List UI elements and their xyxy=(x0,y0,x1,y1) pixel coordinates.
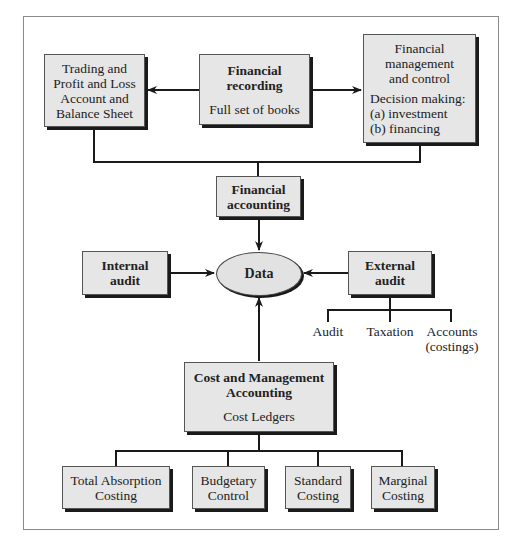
box-detail: Decision making: xyxy=(364,91,466,106)
box-text: Trading and xyxy=(62,61,127,76)
box-title: audit xyxy=(375,273,405,288)
box-text: Balance Sheet xyxy=(56,106,133,121)
box-title: accounting xyxy=(227,197,290,212)
box-title: Accounting xyxy=(226,385,292,400)
box-detail: (a) investment xyxy=(364,106,448,121)
box-text: Profit and Loss xyxy=(53,76,136,91)
box-text: Costing xyxy=(95,488,137,503)
external-audit-child-audit: Audit xyxy=(308,324,348,339)
box-subtitle: Full set of books xyxy=(209,102,299,117)
box-title: Cost and Management xyxy=(194,370,325,385)
marginal-costing-box: Marginal Costing xyxy=(371,466,435,509)
box-text: Control xyxy=(208,488,249,503)
data-ellipse: Data xyxy=(216,252,302,296)
box-title: Financial xyxy=(394,41,444,56)
box-detail: (b) financing xyxy=(364,121,440,136)
box-text: Costing xyxy=(297,488,339,503)
box-title: management xyxy=(385,56,454,71)
leaf-sublabel: (costings) xyxy=(421,339,483,354)
box-title: and control xyxy=(389,71,450,86)
box-title: Internal xyxy=(101,258,148,273)
box-text: Total Absorption xyxy=(71,473,162,488)
box-title: audit xyxy=(110,273,140,288)
box-text: Costing xyxy=(382,488,424,503)
budgetary-control-box: Budgetary Control xyxy=(192,466,265,509)
box-subtitle: Cost Ledgers xyxy=(223,409,295,424)
data-label: Data xyxy=(245,266,274,282)
box-title: External xyxy=(365,258,415,273)
external-audit-child-taxation: Taxation xyxy=(362,324,418,339)
box-text: Budgetary xyxy=(200,473,256,488)
leaf-label: Accounts xyxy=(421,324,483,339)
box-text: Standard xyxy=(294,473,342,488)
box-text: Account and xyxy=(60,91,129,106)
box-title: recording xyxy=(227,78,283,93)
box-title: Financial xyxy=(231,182,285,197)
external-audit-child-accounts: Accounts (costings) xyxy=(421,324,483,354)
cost-management-accounting-box: Cost and Management Accounting Cost Ledg… xyxy=(184,362,334,432)
financial-accounting-box: Financial accounting xyxy=(216,176,301,217)
box-text: Marginal xyxy=(378,473,427,488)
box-title: Financial xyxy=(227,63,281,78)
external-audit-box: External audit xyxy=(348,251,432,295)
total-absorption-costing-box: Total Absorption Costing xyxy=(62,466,170,509)
financial-recording-box: Financial recording Full set of books xyxy=(199,54,310,125)
standard-costing-box: Standard Costing xyxy=(285,466,351,509)
trading-pl-balance-sheet-box: Trading and Profit and Loss Account and … xyxy=(44,54,145,127)
financial-management-box: Financial management and control Decisio… xyxy=(363,34,476,143)
internal-audit-box: Internal audit xyxy=(82,251,168,295)
